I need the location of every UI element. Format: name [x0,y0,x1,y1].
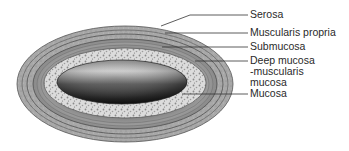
label-serosa: Serosa [250,9,283,20]
label-mucosa: Mucosa [250,88,287,99]
leader-serosa [161,15,248,26]
label-muscularis-propria: Muscularis propria [250,27,336,38]
label-submucosa: Submucosa [250,41,305,52]
